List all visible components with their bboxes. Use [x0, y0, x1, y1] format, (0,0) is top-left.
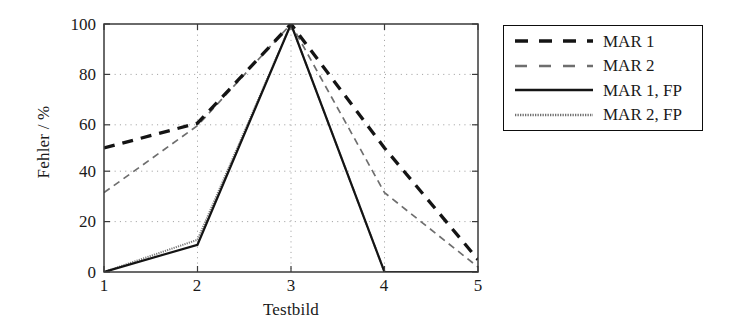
legend-swatch-mar-2-fp: [513, 107, 595, 123]
x-tick-label-1: 1: [89, 277, 119, 294]
legend-swatch-mar-1-fp: [513, 82, 595, 98]
y-tick-label-40: 40: [52, 163, 96, 180]
x-axis-title: Testbild: [104, 300, 478, 320]
y-tick-label-100: 100: [52, 16, 96, 33]
x-tick-label-4: 4: [369, 277, 399, 294]
legend: MAR 1 MAR 2 MAR 1, FP: [503, 25, 703, 131]
x-tick-label-3: 3: [276, 277, 306, 294]
y-tick-label-60: 60: [52, 116, 96, 133]
y-axis-title: Fehler / %: [34, 62, 54, 222]
legend-item-mar-1: MAR 1: [504, 29, 702, 53]
figure-container: 100 80 60 40 20 0 1 2 3 4 5 Fehler / % T…: [0, 0, 735, 332]
y-tick-label-80: 80: [52, 66, 96, 83]
legend-label-mar-2-fp: MAR 2, FP: [603, 106, 682, 123]
legend-item-mar-1-fp: MAR 1, FP: [504, 78, 702, 102]
legend-label-mar-1: MAR 1: [603, 33, 654, 50]
x-tick-label-2: 2: [182, 277, 212, 294]
legend-swatch-mar-1: [513, 33, 595, 49]
y-tick-label-20: 20: [52, 213, 96, 230]
x-tick-label-5: 5: [463, 277, 493, 294]
legend-label-mar-1-fp: MAR 1, FP: [603, 82, 682, 99]
legend-label-mar-2: MAR 2: [603, 57, 654, 74]
legend-item-mar-2-fp: MAR 2, FP: [504, 103, 702, 127]
legend-item-mar-2: MAR 2: [504, 54, 702, 78]
legend-swatch-mar-2: [513, 58, 595, 74]
